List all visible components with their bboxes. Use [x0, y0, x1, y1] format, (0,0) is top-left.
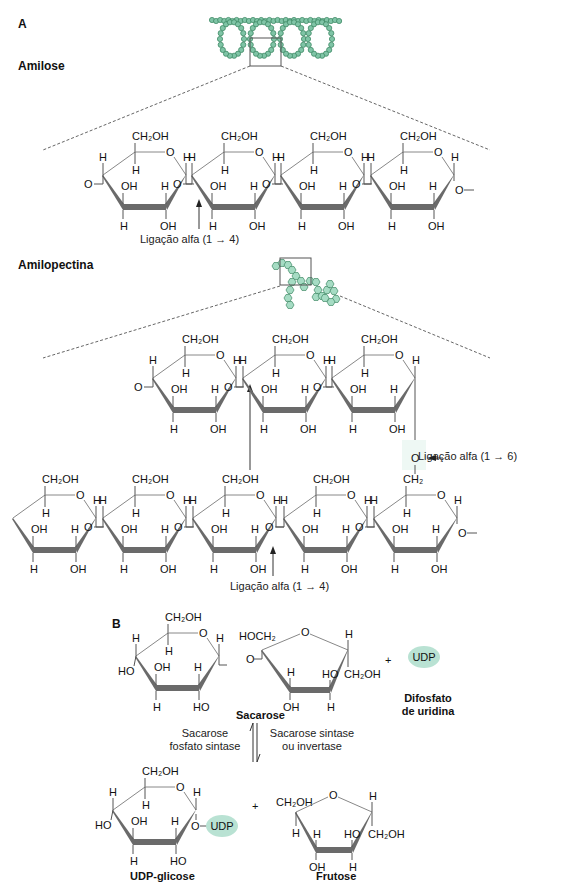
svg-text:H: H [349, 423, 357, 435]
plus-sign-1: + [385, 654, 391, 666]
svg-text:O: O [262, 178, 271, 190]
svg-text:H: H [251, 523, 259, 535]
svg-text:H: H [171, 815, 179, 827]
svg-text:H: H [42, 507, 50, 519]
svg-text:CH₂OH: CH₂OH [182, 333, 219, 345]
svg-text:H: H [403, 507, 411, 519]
enzyme-right-line1: Sacarose sintase [262, 727, 362, 740]
svg-text:OH: OH [389, 180, 406, 192]
svg-text:HO: HO [95, 819, 112, 831]
svg-text:H: H [142, 799, 150, 811]
svg-text:CH₂OH: CH₂OH [400, 130, 437, 142]
svg-text:OH: OH [250, 563, 267, 575]
svg-text:HO: HO [344, 828, 361, 840]
svg-text:OH: OH [210, 423, 227, 435]
sucrose-molecule: OHOCH₂OHOHHOHHCH₂OH [239, 626, 381, 713]
svg-text:CH₂OH: CH₂OH [313, 473, 350, 485]
svg-text:O: O [301, 626, 310, 638]
amylose-chain [196, 199, 202, 229]
svg-text:H: H [99, 494, 107, 506]
svg-text:H: H [280, 494, 288, 506]
svg-text:H: H [390, 383, 398, 395]
svg-text:CH₂OH: CH₂OH [272, 333, 309, 345]
svg-text:H: H [454, 494, 462, 506]
svg-text:H: H [30, 563, 38, 575]
svg-text:OH: OH [131, 815, 148, 827]
amylopectin-linkage-14-label: Ligação alfa (1 → 4) [230, 580, 329, 592]
svg-text:UDP: UDP [412, 651, 435, 663]
udp-name: Difosfato de uridina [392, 692, 464, 718]
svg-text:CH₂OH: CH₂OH [221, 130, 258, 142]
svg-text:H: H [388, 220, 396, 232]
svg-text:H: H [153, 701, 161, 713]
svg-text:H: H [272, 367, 280, 379]
svg-text:OH: OH [431, 563, 448, 575]
svg-text:H: H [313, 828, 321, 840]
svg-text:H: H [170, 423, 178, 435]
svg-text:H: H [99, 151, 107, 163]
svg-text:O: O [455, 184, 464, 196]
svg-text:H: H [310, 164, 318, 176]
svg-text:H: H [222, 507, 230, 519]
panel-a-label: A [18, 17, 27, 31]
plus-sign-2: + [252, 800, 258, 812]
svg-text:O: O [166, 146, 175, 158]
svg-text:H: H [301, 383, 309, 395]
svg-text:OH: OH [160, 563, 177, 575]
svg-text:O: O [344, 146, 353, 158]
svg-text:OH: OH [341, 563, 358, 575]
svg-text:OH: OH [154, 661, 171, 673]
svg-text:H: H [239, 354, 247, 366]
enzyme-right-line2: ou invertase [262, 740, 362, 753]
amylopectin-title: Amilopectina [18, 258, 93, 272]
svg-text:O: O [395, 349, 404, 361]
svg-text:O: O [176, 781, 185, 793]
svg-text:H: H [367, 151, 375, 163]
svg-text:H: H [161, 523, 169, 535]
svg-text:O: O [434, 146, 443, 158]
svg-text:CH₂OH: CH₂OH [310, 130, 347, 142]
enzyme-left-line2: fosfato sintase [160, 740, 250, 753]
svg-text:OH: OH [283, 701, 300, 713]
svg-text:CH₂OH: CH₂OH [165, 611, 202, 623]
svg-text:H: H [209, 220, 217, 232]
svg-text:H: H [132, 164, 140, 176]
svg-text:H: H [287, 666, 295, 678]
svg-text:HO: HO [170, 855, 187, 867]
svg-text:O: O [458, 527, 467, 539]
udp-name-line2: de uridina [392, 705, 464, 718]
svg-text:H: H [412, 354, 420, 366]
svg-text:H: H [301, 563, 309, 575]
svg-text:OH: OH [299, 180, 316, 192]
svg-text:H: H [370, 494, 378, 506]
svg-text:H: H [216, 632, 224, 644]
svg-text:H: H [132, 507, 140, 519]
svg-text:OH: OH [389, 423, 406, 435]
svg-text:CH₂OH: CH₂OH [222, 473, 259, 485]
amylose-title: Amilose [18, 59, 65, 73]
svg-text:O: O [313, 381, 322, 393]
svg-text:H: H [327, 701, 335, 713]
svg-text:CH₂OH: CH₂OH [42, 473, 79, 485]
svg-text:HO: HO [322, 668, 339, 680]
svg-text:O: O [173, 178, 182, 190]
svg-text:H: H [391, 563, 399, 575]
svg-text:H: H [369, 790, 377, 802]
svg-text:O: O [355, 521, 364, 533]
svg-text:OH: OH [350, 383, 367, 395]
starch-sucrose-diagram: CH₂OHOHHOOHHHOHHCH₂OHOHHOOHHHOHHCH₂OHOHH… [0, 0, 577, 894]
udp-badge: UDP [408, 646, 440, 668]
svg-text:O: O [216, 349, 225, 361]
svg-text:OH: OH [428, 220, 445, 232]
svg-text:HO: HO [193, 701, 210, 713]
svg-text:OH: OH [171, 383, 188, 395]
svg-text:H: H [339, 180, 347, 192]
svg-text:O: O [166, 489, 175, 501]
svg-text:H: H [260, 423, 268, 435]
svg-text:H: H [120, 220, 128, 232]
svg-text:OH: OH [210, 180, 227, 192]
svg-text:H: H [130, 855, 138, 867]
svg-text:H: H [193, 786, 201, 798]
fructose-label: Frutose [316, 870, 356, 882]
svg-text:H: H [432, 523, 440, 535]
